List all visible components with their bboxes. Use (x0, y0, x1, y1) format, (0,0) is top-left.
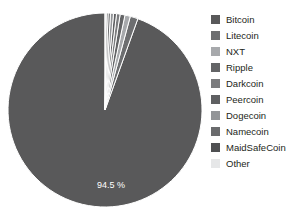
legend-item-label: Namecoin (226, 126, 269, 137)
pie-plot-area: 94.5 % (0, 0, 210, 210)
legend-item-label: MaidSafeCoin (226, 142, 286, 153)
pie-slice-label-bitcoin: 94.5 % (97, 180, 125, 190)
legend-swatch-icon (211, 63, 220, 72)
pie-svg: 94.5 % (0, 0, 210, 210)
legend-item-label: Bitcoin (226, 14, 255, 25)
legend-item[interactable]: Ripple (211, 59, 301, 75)
legend-swatch-icon (211, 15, 220, 24)
legend-swatch-icon (211, 143, 220, 152)
legend-swatch-icon (211, 31, 220, 40)
pie-slices (8, 13, 202, 207)
legend-item-label: Other (226, 158, 250, 169)
legend-swatch-icon (211, 127, 220, 136)
legend-swatch-icon (211, 159, 220, 168)
legend-item-label: Dogecoin (226, 110, 266, 121)
legend-item[interactable]: Dogecoin (211, 107, 301, 123)
legend-item-label: NXT (226, 46, 245, 57)
legend-item[interactable]: MaidSafeCoin (211, 139, 301, 155)
legend-item[interactable]: Namecoin (211, 123, 301, 139)
legend-item[interactable]: NXT (211, 43, 301, 59)
legend-item-label: Litecoin (226, 30, 259, 41)
legend-item[interactable]: Darkcoin (211, 75, 301, 91)
legend-item[interactable]: Bitcoin (211, 11, 301, 27)
pie-chart-figure: 94.5 % BitcoinLitecoinNXTRippleDarkcoinP… (0, 0, 301, 210)
legend-swatch-icon (211, 47, 220, 56)
legend-item-label: Ripple (226, 62, 253, 73)
legend-item-label: Darkcoin (226, 78, 264, 89)
legend-item-label: Peercoin (226, 94, 264, 105)
legend-swatch-icon (211, 111, 220, 120)
chart-legend: BitcoinLitecoinNXTRippleDarkcoinPeercoin… (211, 11, 301, 171)
legend-swatch-icon (211, 79, 220, 88)
legend-item[interactable]: Peercoin (211, 91, 301, 107)
legend-swatch-icon (211, 95, 220, 104)
legend-item[interactable]: Litecoin (211, 27, 301, 43)
legend-item[interactable]: Other (211, 155, 301, 171)
